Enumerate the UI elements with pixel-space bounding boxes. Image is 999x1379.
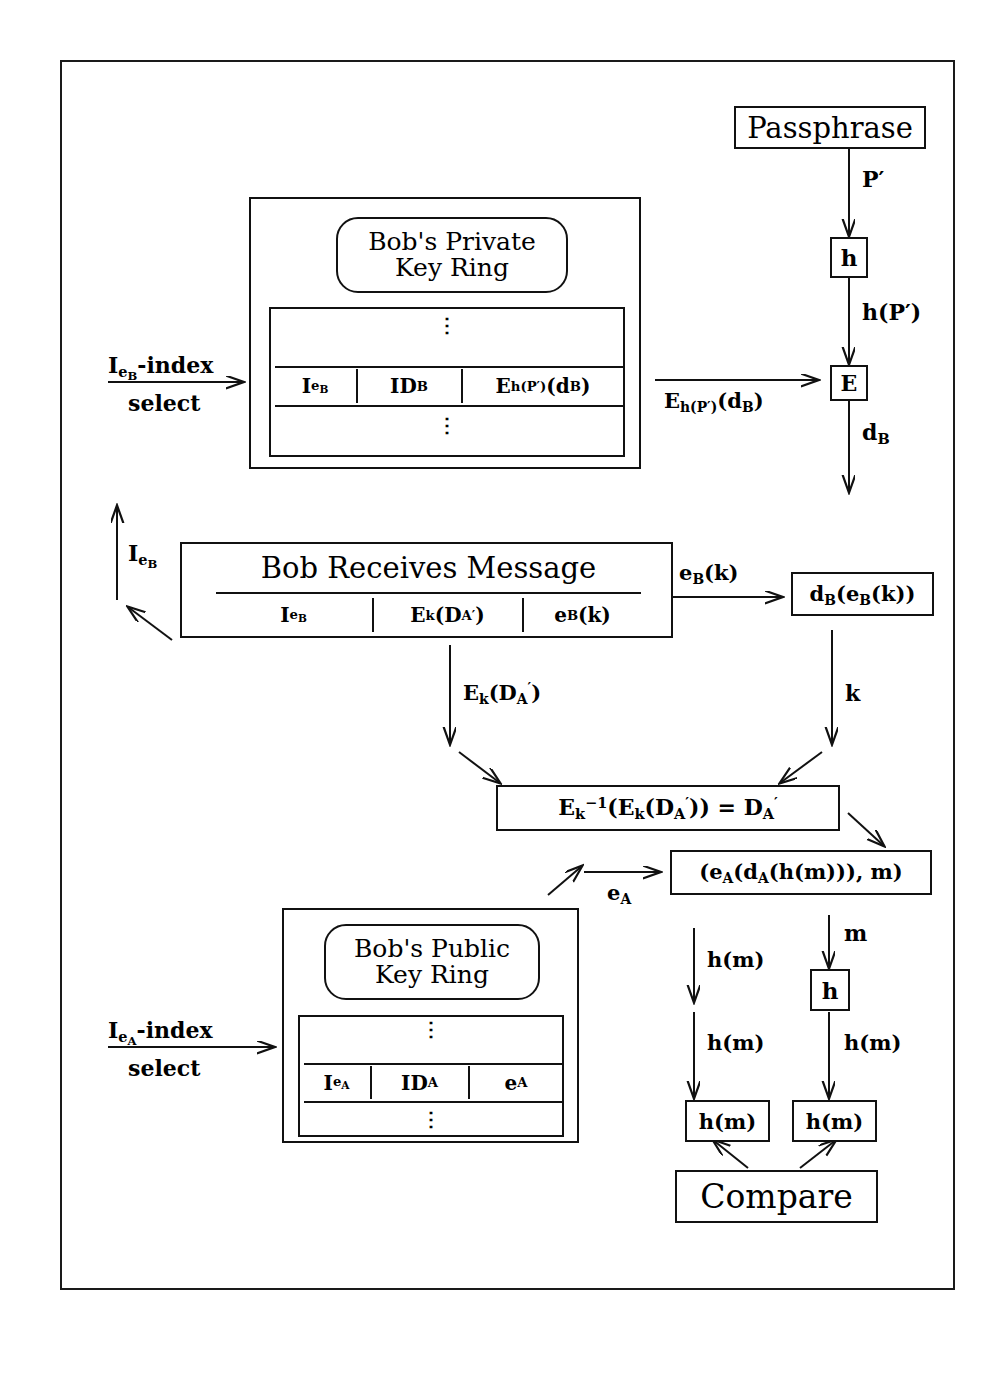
public-ring-cell-id: IDA bbox=[372, 1064, 467, 1101]
edge-label-p-prime: P′ bbox=[862, 166, 884, 192]
message-box-cell-payload: Ek(DA′) bbox=[374, 596, 521, 634]
public-ring-title-line1: Bob's Public bbox=[354, 936, 510, 962]
edge-label-e-b-k: eB(k) bbox=[679, 560, 739, 587]
public-key-ring: Bob's Public Key Ring ⋮ IeA IDA eA ⋮ bbox=[282, 908, 579, 1143]
private-ring-cell-key: Eh(P′)(dB) bbox=[464, 367, 622, 405]
private-ring-cell-index: IeB bbox=[275, 367, 355, 405]
private-key-ring-title: Bob's Private Key Ring bbox=[336, 217, 568, 293]
message-box-title-rule bbox=[216, 592, 641, 594]
public-ring-rule-bottom bbox=[304, 1101, 562, 1103]
edge-k-diagonal bbox=[780, 752, 822, 783]
hash-result-left-box: h(m) bbox=[685, 1100, 770, 1142]
encrypt-box: E bbox=[830, 365, 868, 401]
edge-label-hm-right-lower: h(m) bbox=[844, 1030, 901, 1055]
edge-label-k: k bbox=[845, 680, 860, 706]
index-select-top-line1: IeB-index bbox=[108, 352, 213, 383]
private-ring-title-line2: Key Ring bbox=[368, 255, 536, 281]
edge-compare-to-hash-left bbox=[713, 1140, 748, 1168]
private-ring-rule-bottom bbox=[275, 405, 623, 407]
private-key-ring: Bob's Private Key Ring ⋮ IeB IDB Eh(P′)(… bbox=[249, 197, 641, 469]
hash-box-bottom-label: h bbox=[822, 977, 839, 1004]
decrypt-session-box: dB(eB(k)) bbox=[791, 572, 934, 616]
index-select-bottom-line1: IeA-index bbox=[108, 1017, 213, 1048]
public-ring-cell-index: IeA bbox=[304, 1064, 369, 1101]
index-select-top-line2: select bbox=[128, 390, 200, 416]
private-ring-divider-1 bbox=[356, 369, 358, 403]
hash-result-right-box: h(m) bbox=[792, 1100, 877, 1142]
edge-label-hm-left-upper: h(m) bbox=[707, 947, 764, 972]
message-box: Bob Receives Message IeB Ek(DA′) eB(k) bbox=[180, 542, 673, 638]
encrypt-box-label: E bbox=[841, 370, 858, 396]
signature-pair-box: (eA(dA(h(m))), m) bbox=[670, 850, 932, 895]
public-ring-dots-top: ⋮ bbox=[300, 1025, 562, 1033]
decrypt-payload-label: Ek−1(Ek(DA′)) = DA′ bbox=[558, 794, 778, 822]
edge-label-d-b: dB bbox=[862, 419, 890, 447]
hash-box-top-label: h bbox=[841, 244, 858, 271]
edge-message-to-index bbox=[128, 607, 172, 640]
public-ring-title-line2: Key Ring bbox=[354, 962, 510, 988]
private-ring-dots-top: ⋮ bbox=[271, 321, 623, 329]
public-key-ring-table: ⋮ IeA IDA eA ⋮ bbox=[298, 1015, 564, 1137]
index-select-bottom-line2: select bbox=[128, 1055, 200, 1081]
hash-result-right-label: h(m) bbox=[806, 1109, 863, 1134]
compare-box: Compare bbox=[675, 1170, 878, 1223]
edge-da-diagonal bbox=[848, 813, 884, 846]
message-box-cell-sessionkey: eB(k) bbox=[524, 596, 641, 634]
edge-label-hm-left-lower: h(m) bbox=[707, 1030, 764, 1055]
edge-label-e-a: eA bbox=[607, 880, 631, 907]
passphrase-box: Passphrase bbox=[734, 106, 926, 149]
private-ring-cell-id: IDB bbox=[359, 367, 459, 405]
hash-box-bottom: h bbox=[810, 969, 850, 1011]
diagram-canvas: Passphrase P′ h h(P′) E dB Eh(P′)(dB) Ie… bbox=[0, 0, 999, 1379]
edge-label-e-hp-db: Eh(P′)(dB) bbox=[664, 388, 764, 415]
private-ring-dots-bottom: ⋮ bbox=[271, 421, 623, 429]
message-box-cell-index: IeB bbox=[216, 596, 371, 634]
edge-publicring-diagonal bbox=[548, 866, 582, 895]
public-key-ring-title: Bob's Public Key Ring bbox=[324, 924, 540, 1000]
signature-pair-label: (eA(dA(h(m))), m) bbox=[699, 859, 902, 886]
decrypt-payload-box: Ek−1(Ek(DA′)) = DA′ bbox=[496, 785, 840, 831]
edge-label-e-k-da: Ek(DA′) bbox=[463, 680, 541, 707]
private-ring-divider-2 bbox=[461, 369, 463, 403]
hash-box-top: h bbox=[830, 237, 868, 278]
private-ring-title-line1: Bob's Private bbox=[368, 229, 536, 255]
private-key-ring-table: ⋮ IeB IDB Eh(P′)(dB) ⋮ bbox=[269, 307, 625, 457]
message-box-title: Bob Receives Message bbox=[190, 546, 667, 590]
decrypt-session-label: dB(eB(k)) bbox=[810, 581, 916, 608]
edge-label-i-eb-up: IeB bbox=[128, 540, 157, 571]
edge-payload-diagonal bbox=[459, 752, 500, 783]
edge-label-m: m bbox=[844, 920, 867, 946]
edge-compare-to-hash-right bbox=[800, 1140, 836, 1168]
public-ring-dots-bottom: ⋮ bbox=[300, 1115, 562, 1123]
edge-label-h-p-prime: h(P′) bbox=[862, 299, 921, 325]
public-ring-cell-key: eA bbox=[470, 1064, 562, 1101]
compare-label: Compare bbox=[700, 1177, 853, 1216]
hash-result-left-label: h(m) bbox=[699, 1109, 756, 1134]
passphrase-label: Passphrase bbox=[747, 111, 913, 145]
